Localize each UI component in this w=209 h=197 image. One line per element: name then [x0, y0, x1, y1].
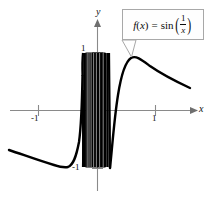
close-paren: ): [145, 19, 149, 31]
fraction-one-over-x: 1 x: [180, 14, 187, 35]
fraction-denominator: x: [180, 26, 186, 35]
y-tick-label-neg1: -1: [72, 163, 80, 172]
equals-sign: =: [152, 19, 158, 31]
equation-text: f(x) = sin ( 1 x ): [133, 14, 193, 35]
curve-right-branch: [110, 57, 190, 168]
big-close-paren: ): [188, 18, 192, 32]
x-tick-label-neg1: -1: [31, 114, 39, 123]
sin-label: sin: [161, 19, 174, 31]
fraction-numerator: 1: [180, 14, 187, 23]
curve-left-branch: [9, 76, 83, 167]
y-tick-label-1: 1: [81, 44, 86, 53]
equation-callout-box: f(x) = sin ( 1 x ): [122, 9, 204, 40]
x-axis-label: x: [199, 104, 203, 114]
callout-leader: [122, 40, 136, 57]
x-tick-label-1: 1: [152, 114, 157, 123]
oscillation-band: [82, 53, 110, 168]
big-open-paren: (: [175, 18, 179, 32]
function-graph-figure: -1 1 1 -1 x y f(x) = sin ( 1 x ): [0, 0, 209, 197]
y-axis-label: y: [96, 7, 100, 17]
